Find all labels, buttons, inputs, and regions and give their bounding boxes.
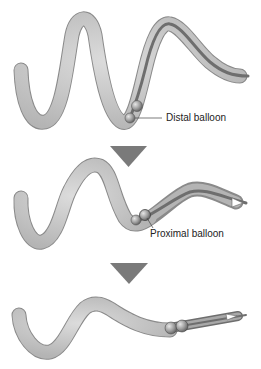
stage-1-distal-balloon bbox=[125, 113, 135, 123]
stage-1-balloon-upper bbox=[132, 101, 143, 112]
proximal-balloon-label: Proximal balloon bbox=[150, 228, 224, 239]
arrow-down-icon bbox=[110, 263, 148, 284]
stage-3-intestine bbox=[19, 304, 170, 352]
distal-balloon-label: Distal balloon bbox=[166, 112, 226, 123]
enteroscopy-diagram bbox=[0, 0, 261, 369]
stage-2-proximal-balloon bbox=[140, 210, 151, 221]
arrow-down-icon bbox=[110, 146, 147, 167]
stage-3-balloon-2 bbox=[176, 320, 188, 332]
stage-3-balloon-1 bbox=[165, 322, 177, 334]
stage-1-intestine bbox=[21, 19, 240, 123]
